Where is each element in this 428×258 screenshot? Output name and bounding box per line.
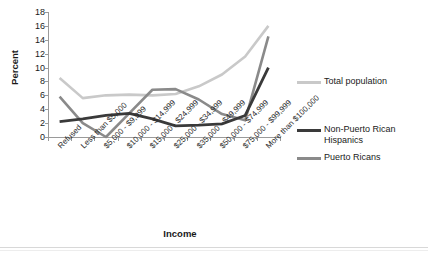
legend-color-swatch bbox=[297, 157, 321, 160]
y-tick-label: 16 bbox=[29, 21, 45, 30]
y-tick-label: 4 bbox=[29, 105, 45, 114]
y-axis-title: Percent bbox=[9, 33, 20, 103]
chart-title-truncated bbox=[30, 0, 290, 7]
chart-figure: Percent 024681012141618 RefusedLess than… bbox=[0, 0, 428, 258]
y-tick-label: 8 bbox=[29, 77, 45, 86]
y-tick-label: 0 bbox=[29, 133, 45, 142]
footer-divider-secondary bbox=[0, 250, 428, 251]
y-tick-label: 2 bbox=[29, 119, 45, 128]
legend-color-swatch bbox=[297, 81, 321, 84]
legend-color-swatch bbox=[297, 129, 321, 132]
legend-label: Non-Puerto Rican Hispanics bbox=[324, 124, 420, 146]
legend-item: Total population bbox=[297, 76, 387, 87]
y-tick-label: 14 bbox=[29, 35, 45, 44]
y-tick-label: 12 bbox=[29, 49, 45, 58]
x-axis-title: Income bbox=[120, 228, 240, 239]
legend-label: Puerto Ricans bbox=[324, 152, 381, 163]
legend-label: Total population bbox=[324, 76, 387, 87]
legend-item: Non-Puerto Rican Hispanics bbox=[297, 124, 420, 146]
series-line bbox=[60, 26, 269, 98]
x-tick-mark bbox=[48, 137, 49, 141]
footer-divider bbox=[0, 247, 428, 248]
legend-item: Puerto Ricans bbox=[297, 152, 381, 163]
x-axis-category-labels: RefusedLess than $5,000$5,000 - $9,999$1… bbox=[48, 142, 281, 204]
y-tick-label: 18 bbox=[29, 8, 45, 17]
y-tick-label: 6 bbox=[29, 91, 45, 100]
y-tick-label: 10 bbox=[29, 63, 45, 72]
